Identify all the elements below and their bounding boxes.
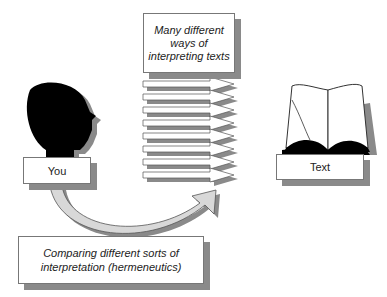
top-label-line-3: interpreting texts: [148, 50, 229, 63]
you-label: You: [48, 165, 67, 177]
curved-arrow-icon: [50, 186, 220, 237]
arrows-stack: [143, 77, 238, 186]
top-label-box: Many different ways of interpreting text…: [143, 13, 235, 73]
you-label-box: You: [23, 157, 91, 184]
text-label: Text: [310, 161, 330, 173]
text-label-box: Text: [276, 154, 364, 180]
head-silhouette-icon: [27, 83, 101, 164]
top-label-line-2: ways of: [170, 37, 207, 50]
bottom-label-line-1: Comparing different sorts of: [43, 246, 179, 260]
bottom-label-line-2: interpretation (hermeneutics): [41, 260, 182, 274]
open-book-icon: [282, 84, 377, 155]
top-label-line-1: Many different: [154, 24, 224, 37]
bottom-label-box: Comparing different sorts of interpretat…: [18, 236, 204, 284]
